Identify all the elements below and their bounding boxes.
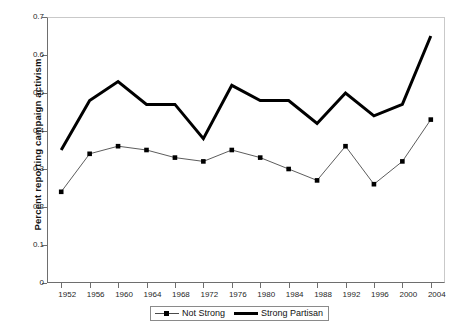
- data-point-marker: [201, 159, 206, 164]
- legend-item-not-strong[interactable]: Not Strong: [155, 309, 225, 318]
- y-axis-tick-label: 0.2: [4, 203, 44, 211]
- data-point-marker: [87, 152, 92, 157]
- series-layer: [47, 17, 445, 283]
- x-axis-tick: [374, 283, 375, 288]
- y-axis-tick-label: 0.7: [4, 13, 44, 21]
- series-line-not-strong: [61, 120, 431, 192]
- data-point-marker: [400, 159, 405, 164]
- x-axis-tick: [203, 283, 204, 288]
- legend-key-not-strong-icon: [155, 309, 179, 318]
- data-point-marker: [144, 148, 149, 153]
- data-point-marker: [116, 144, 121, 149]
- x-axis-tick: [232, 283, 233, 288]
- x-axis-tick: [346, 283, 347, 288]
- legend-item-strong-partisan[interactable]: Strong Partisan: [234, 309, 323, 318]
- data-point-marker: [258, 155, 263, 160]
- x-axis-tick: [61, 283, 62, 288]
- data-point-marker: [229, 148, 234, 153]
- data-point-marker: [173, 155, 178, 160]
- x-axis-tick: [260, 283, 261, 288]
- chart-legend: Not Strong Strong Partisan: [150, 306, 329, 321]
- data-point-marker: [428, 117, 433, 122]
- y-axis-tick-label: 0: [4, 279, 44, 287]
- line-chart: Percent reporting campaign activism 00.1…: [0, 0, 453, 333]
- y-axis-tick-label: 0.3: [4, 165, 44, 173]
- x-axis-tick: [431, 283, 432, 288]
- y-axis-tick-label: 0.4: [4, 127, 44, 135]
- legend-key-strong-partisan-icon: [234, 309, 258, 318]
- data-point-marker: [343, 144, 348, 149]
- series-line-strong-partisan: [61, 36, 431, 150]
- data-point-marker: [286, 167, 291, 172]
- x-axis-tick: [147, 283, 148, 288]
- data-point-marker: [315, 178, 320, 183]
- plot-area: [47, 17, 445, 283]
- y-axis-tick-label: 0.1: [4, 241, 44, 249]
- legend-label-not-strong: Not Strong: [182, 309, 225, 318]
- x-axis-tick: [118, 283, 119, 288]
- data-point-marker: [59, 190, 64, 195]
- legend-label-strong-partisan: Strong Partisan: [261, 309, 323, 318]
- x-axis-tick: [289, 283, 290, 288]
- x-axis-tick: [317, 283, 318, 288]
- data-point-marker: [372, 182, 377, 187]
- x-axis-tick-label: 2004: [415, 291, 453, 299]
- y-axis-tick-label: 0.6: [4, 51, 44, 59]
- x-axis-tick: [402, 283, 403, 288]
- x-axis-tick: [175, 283, 176, 288]
- y-axis-tick-label: 0.5: [4, 89, 44, 97]
- x-axis-tick: [90, 283, 91, 288]
